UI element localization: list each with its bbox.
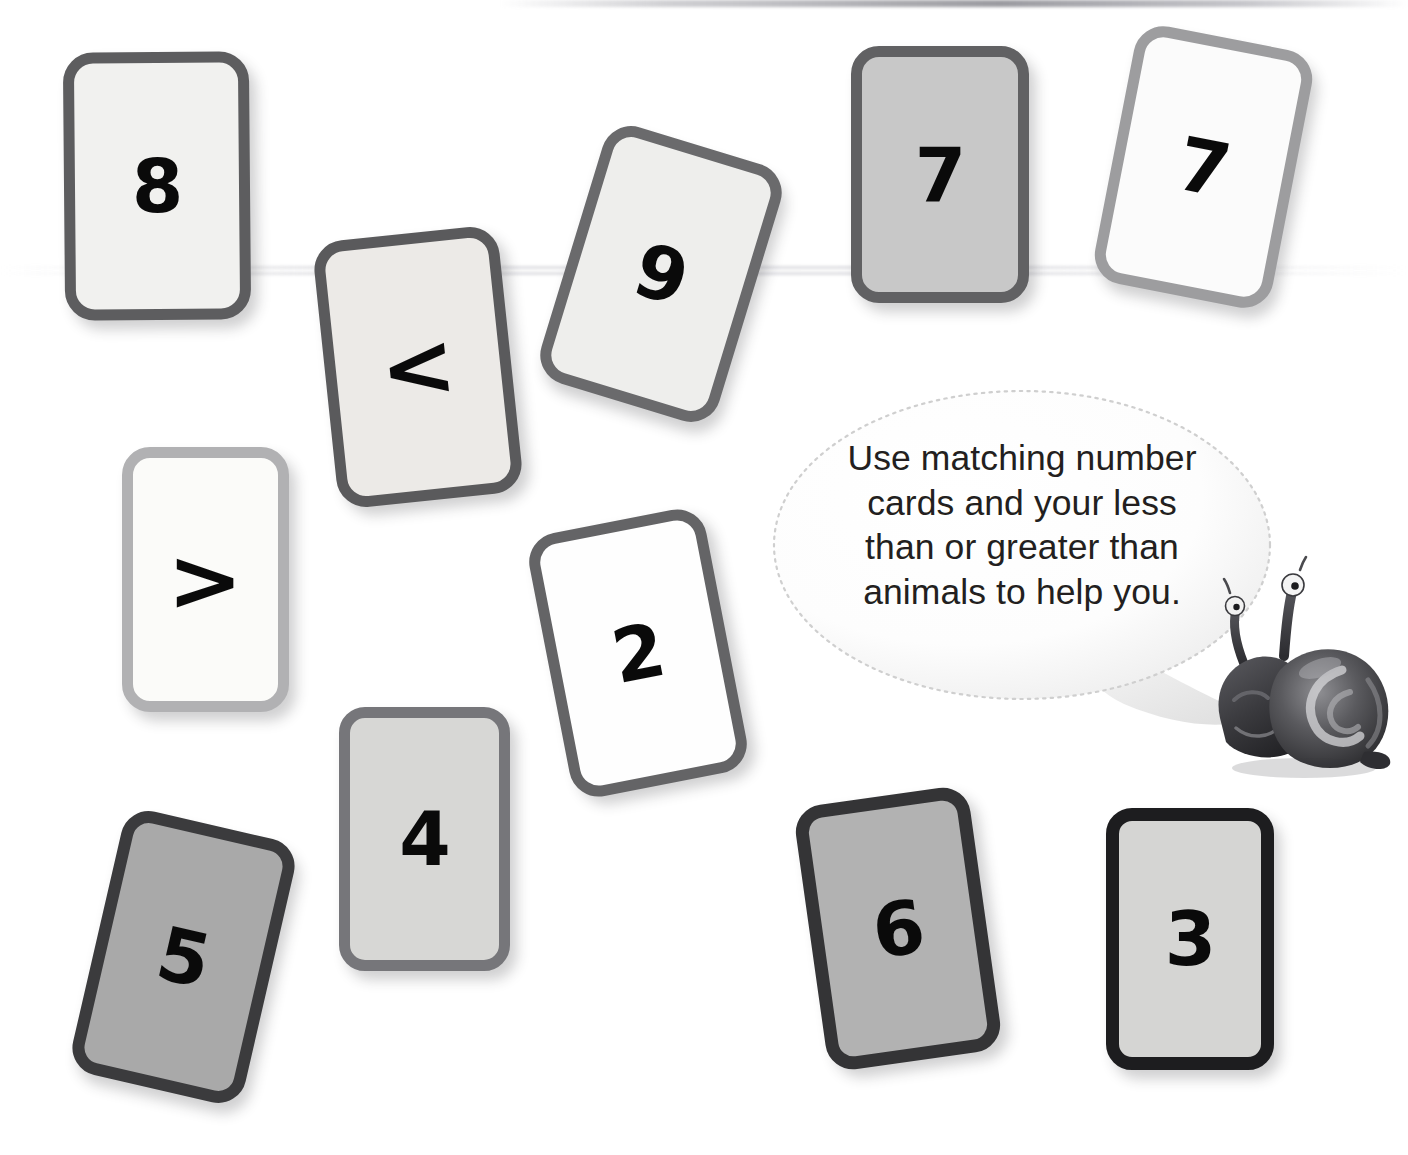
card-number-glyph: 8	[131, 149, 182, 223]
snail-mascot	[1192, 552, 1404, 780]
instruction-line: Use matching number	[798, 436, 1246, 481]
number-card-4[interactable]: 4	[339, 707, 510, 971]
operator-card-less-than[interactable]: <	[312, 224, 525, 510]
operator-card-greater-than[interactable]: >	[122, 447, 289, 712]
instruction-text: Use matching numbercards and your lessth…	[798, 436, 1246, 614]
card-operator-glyph: <	[376, 320, 460, 413]
number-card-7-white[interactable]: 7	[1090, 21, 1318, 313]
instruction-line: animals to help you.	[798, 570, 1246, 615]
number-card-6[interactable]: 6	[792, 784, 1003, 1073]
number-card-7-gray[interactable]: 7	[851, 46, 1029, 303]
card-number-glyph: 5	[151, 915, 217, 998]
print-smudge-top	[500, 0, 1408, 7]
instruction-line: cards and your less	[798, 481, 1246, 526]
number-card-2[interactable]: 2	[524, 504, 752, 801]
card-number-glyph: 7	[1172, 126, 1236, 208]
number-card-8[interactable]: 8	[63, 51, 251, 321]
card-number-glyph: 4	[399, 802, 450, 876]
card-number-glyph: 3	[1165, 902, 1216, 976]
card-number-glyph: 6	[868, 888, 928, 968]
snail-icon	[1192, 552, 1404, 780]
card-operator-glyph: >	[168, 537, 244, 623]
number-card-9[interactable]: 9	[533, 119, 789, 430]
card-number-glyph: 2	[606, 612, 670, 694]
card-number-glyph: 7	[915, 138, 966, 212]
card-number-glyph: 9	[626, 231, 696, 317]
number-card-3[interactable]: 3	[1106, 808, 1274, 1070]
instruction-line: than or greater than	[798, 525, 1246, 570]
number-card-5[interactable]: 5	[67, 806, 300, 1109]
activity-page: Draw thefrom avalue car Use matching nu	[0, 0, 1408, 1155]
